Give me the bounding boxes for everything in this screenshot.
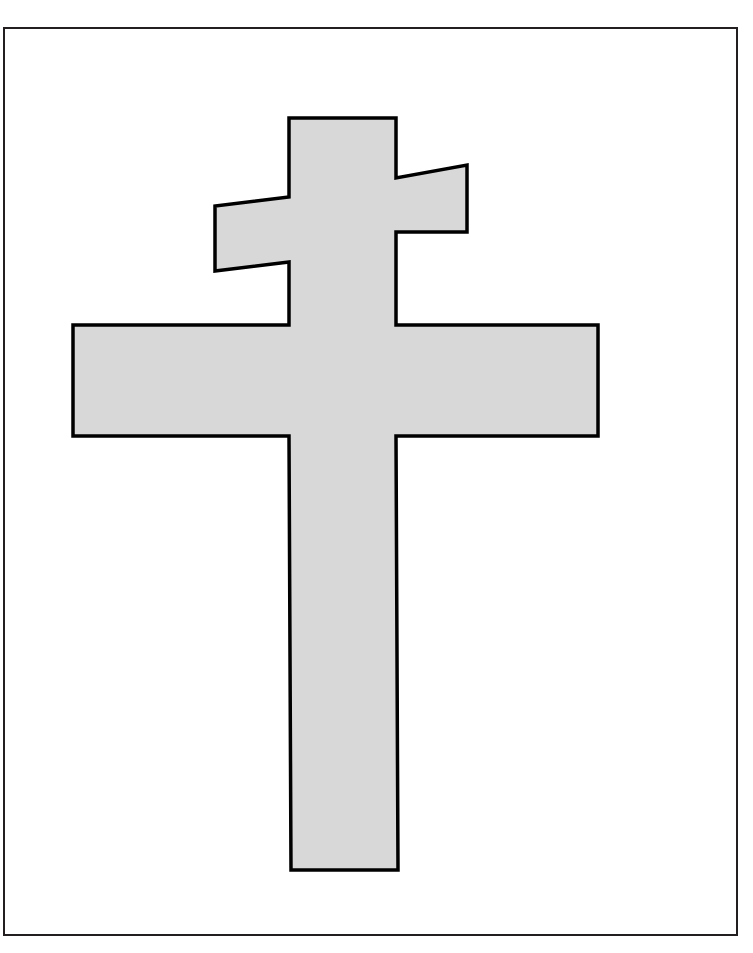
figure-canvas <box>0 0 753 953</box>
cross-figure-svg <box>0 0 753 953</box>
page-root <box>0 0 753 953</box>
